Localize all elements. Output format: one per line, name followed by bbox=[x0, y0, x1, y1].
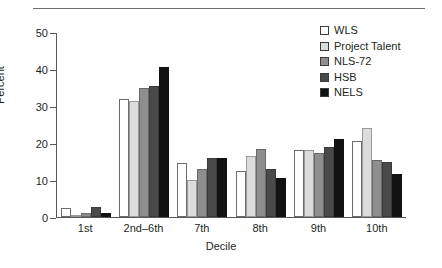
y-axis-tick-label: 20 bbox=[36, 139, 48, 150]
bar bbox=[352, 141, 362, 217]
bar bbox=[187, 180, 197, 217]
bar bbox=[246, 156, 256, 217]
bar bbox=[314, 153, 324, 217]
x-axis-tick-label: 7th bbox=[173, 222, 231, 236]
y-axis-tick-label: 10 bbox=[36, 176, 48, 187]
legend-label: HSB bbox=[334, 72, 357, 83]
bar-group bbox=[177, 33, 227, 217]
bar bbox=[276, 178, 286, 217]
bar-group bbox=[61, 33, 111, 217]
y-axis-tick-label: 30 bbox=[36, 102, 48, 113]
legend-label: WLS bbox=[334, 25, 358, 36]
bar bbox=[256, 149, 266, 217]
bar bbox=[91, 207, 101, 217]
legend-swatch-icon bbox=[320, 26, 329, 35]
bar bbox=[61, 208, 71, 217]
bar bbox=[324, 147, 334, 217]
legend-label: Project Talent bbox=[334, 41, 400, 52]
legend-swatch-icon bbox=[320, 42, 329, 51]
bar bbox=[236, 171, 246, 217]
y-axis-title: Percent bbox=[0, 66, 6, 104]
bar bbox=[81, 213, 91, 217]
legend-item[interactable]: NELS bbox=[320, 86, 400, 99]
legend-item[interactable]: NLS-72 bbox=[320, 55, 400, 68]
legend-swatch-icon bbox=[320, 57, 329, 66]
bar bbox=[129, 101, 139, 217]
x-axis-tick-label: 8th bbox=[231, 222, 289, 236]
chart-legend: WLSProject TalentNLS-72HSBNELS bbox=[320, 24, 400, 99]
bar bbox=[139, 88, 149, 218]
y-axis-tick-label: 0 bbox=[42, 213, 48, 224]
bar bbox=[382, 162, 392, 218]
bar bbox=[159, 67, 169, 217]
legend-label: NELS bbox=[334, 87, 363, 98]
bar bbox=[149, 86, 159, 217]
x-axis-tick-label: 10th bbox=[348, 222, 406, 236]
bar-chart-figure: Percent 1st2nd–6th7th8th9th10th Decile W… bbox=[0, 0, 442, 268]
x-axis-tick-label: 9th bbox=[289, 222, 347, 236]
x-axis-tick-label: 1st bbox=[56, 222, 114, 236]
bar bbox=[119, 99, 129, 217]
bar bbox=[372, 160, 382, 217]
y-axis-tick bbox=[50, 33, 56, 34]
y-axis-tick bbox=[50, 144, 56, 145]
bar bbox=[71, 215, 81, 217]
bar bbox=[294, 150, 304, 217]
bar bbox=[217, 158, 227, 217]
legend-item[interactable]: HSB bbox=[320, 71, 400, 84]
legend-swatch-icon bbox=[320, 73, 329, 82]
bar bbox=[334, 139, 344, 217]
bar bbox=[101, 213, 111, 217]
y-axis-tick bbox=[50, 70, 56, 71]
bar bbox=[362, 128, 372, 217]
y-axis-tick-label: 40 bbox=[36, 65, 48, 76]
legend-item[interactable]: WLS bbox=[320, 24, 400, 37]
bar bbox=[197, 169, 207, 217]
x-axis-tick-labels: 1st2nd–6th7th8th9th10th bbox=[56, 222, 406, 236]
y-axis-tick bbox=[50, 218, 56, 219]
x-axis-title: Decile bbox=[0, 240, 442, 252]
x-axis-tick-label: 2nd–6th bbox=[114, 222, 172, 236]
y-axis-tick bbox=[50, 181, 56, 182]
legend-item[interactable]: Project Talent bbox=[320, 40, 400, 53]
bar-group bbox=[236, 33, 286, 217]
bar-group bbox=[119, 33, 169, 217]
bar bbox=[207, 158, 217, 217]
y-axis-tick bbox=[50, 107, 56, 108]
bar bbox=[392, 174, 402, 217]
legend-label: NLS-72 bbox=[334, 56, 371, 67]
bar bbox=[266, 169, 276, 217]
top-divider-rule bbox=[33, 8, 425, 9]
legend-swatch-icon bbox=[320, 88, 329, 97]
y-axis-tick-label: 50 bbox=[36, 28, 48, 39]
bar bbox=[177, 163, 187, 217]
bar bbox=[304, 150, 314, 217]
